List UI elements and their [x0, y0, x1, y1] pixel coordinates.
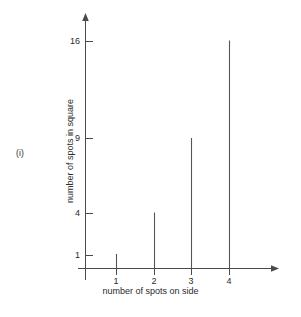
y-tick-label-4: 4: [52, 208, 80, 218]
x-tick-label-1: 1: [113, 276, 118, 286]
spike-plot-canvas: [0, 0, 301, 317]
y-tick-label-16: 16: [52, 36, 80, 46]
x-axis-arrow-icon: [271, 265, 279, 272]
x-tick-label-2: 2: [151, 276, 156, 286]
y-tick-label-1: 1: [52, 250, 80, 260]
y-axis-title: number of spots in square: [65, 99, 75, 203]
x-tick-label-3: 3: [188, 276, 193, 286]
data-series-spots: [117, 41, 230, 269]
x-tick-label-4: 4: [226, 276, 231, 286]
y-axis-arrow-icon: [82, 13, 89, 21]
x-axis-title: number of spots on side: [0, 286, 301, 296]
chart-figure: (i) 16 9 4 1 1 2 3 4 number of spot: [0, 0, 301, 317]
